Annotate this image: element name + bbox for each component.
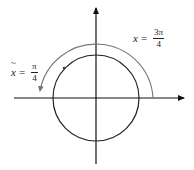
x-tilde-equals-pi-over-4-label: x = π 4 [11, 62, 38, 83]
diagram-svg [0, 0, 194, 170]
equals-sign: = [19, 67, 25, 78]
x-equals-3pi-over-4-label: x = 3π 4 [133, 28, 164, 49]
fraction: π 4 [31, 62, 38, 83]
fraction-numerator: π [31, 62, 38, 73]
fraction: 3π 4 [153, 28, 164, 49]
variable-x: x [133, 33, 138, 44]
variable-x-tilde: x [11, 67, 16, 78]
fraction-denominator: 4 [156, 39, 161, 49]
fraction-numerator: 3π [153, 28, 164, 39]
point-marker [63, 67, 66, 70]
equals-sign: = [141, 33, 147, 44]
fraction-denominator: 4 [32, 73, 37, 83]
diagram-canvas: x = 3π 4 x = π 4 [0, 0, 194, 170]
